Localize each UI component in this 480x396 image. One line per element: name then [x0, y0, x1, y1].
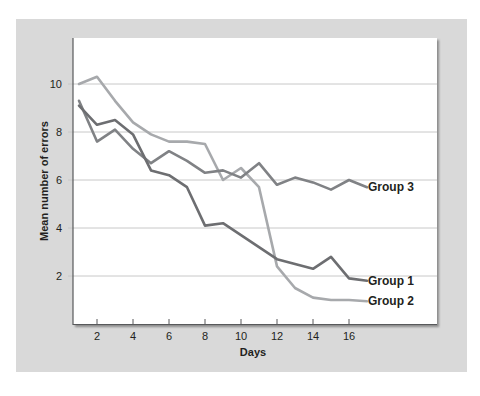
x-tick-label: 8 [202, 330, 208, 342]
y-tick-label: 2 [56, 270, 62, 282]
x-tick-label: 6 [166, 330, 172, 342]
y-tick-label: 10 [50, 78, 62, 90]
series-label-group1: Group 1 [368, 274, 414, 288]
line-chart: 246810246810121416 Days Mean number of e… [0, 0, 480, 396]
x-tick-label: 10 [235, 330, 247, 342]
y-tick-label: 6 [56, 174, 62, 186]
series-label-group2: Group 2 [368, 294, 414, 308]
x-axis-title: Days [240, 346, 266, 358]
series-label-group3: Group 3 [368, 180, 414, 194]
x-tick-label: 2 [94, 330, 100, 342]
y-tick-label: 4 [56, 222, 62, 234]
x-tick-label: 4 [130, 330, 136, 342]
x-tick-label: 12 [271, 330, 283, 342]
x-tick-label: 16 [343, 330, 355, 342]
y-axis-title: Mean number of errors [38, 121, 50, 241]
x-tick-label: 14 [307, 330, 319, 342]
y-tick-label: 8 [56, 126, 62, 138]
